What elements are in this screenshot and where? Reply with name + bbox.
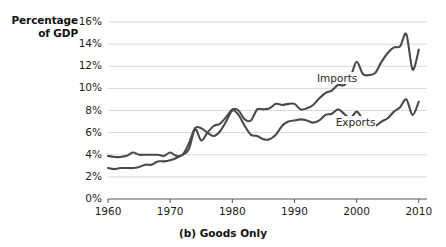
y-axis-tick-label: 14% (68, 38, 102, 49)
chart-caption: (b) Goods Only (0, 227, 446, 239)
series-label-exports: Exports (335, 116, 377, 128)
y-axis-tick-label: 0% (68, 193, 102, 204)
x-axis-tick-label: 1960 (88, 206, 128, 217)
y-axis-tick-label: 16% (68, 16, 102, 27)
series-line-exports (108, 99, 419, 157)
x-axis-tick-label: 1970 (150, 206, 190, 217)
y-axis-tick-label: 8% (68, 105, 102, 116)
series-label-imports: Imports (316, 72, 358, 84)
y-axis-tick-label: 4% (68, 149, 102, 160)
chart-container: Percentage of GDP 0%2%4%6%8%10%12%14%16%… (0, 0, 446, 247)
series-line-imports (108, 34, 419, 170)
x-axis-tick-label: 1990 (274, 206, 314, 217)
y-axis-tick-label: 10% (68, 82, 102, 93)
y-axis-tick-label: 2% (68, 171, 102, 182)
y-axis-tick-label: 6% (68, 127, 102, 138)
x-axis-tick-label: 2000 (337, 206, 377, 217)
y-axis-tick-label: 12% (68, 60, 102, 71)
x-axis-tick-label: 2010 (399, 206, 439, 217)
x-axis-tick-label: 1980 (212, 206, 252, 217)
